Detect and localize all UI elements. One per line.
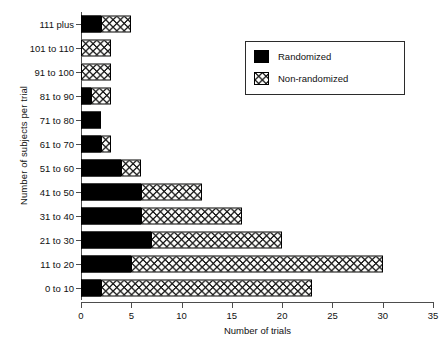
x-axis-tick — [383, 303, 384, 308]
y-axis-tick — [76, 216, 81, 217]
chart-row: 61 to 70 — [81, 132, 433, 156]
bar-segment-randomized[interactable] — [81, 136, 101, 153]
chart-row: 41 to 50 — [81, 180, 433, 204]
bar-segment-non-randomized[interactable] — [81, 40, 111, 57]
stacked-bar[interactable] — [81, 16, 131, 33]
x-axis-tick-label: 10 — [176, 310, 187, 321]
y-axis-tick — [76, 72, 81, 73]
y-axis-title: Number of subjects per trial — [18, 26, 29, 266]
chart-row: 51 to 60 — [81, 156, 433, 180]
bar-segment-randomized[interactable] — [81, 160, 121, 177]
bar-segment-non-randomized[interactable] — [101, 136, 111, 153]
chart-row: 111 plus — [81, 12, 433, 36]
y-axis-tick — [76, 192, 81, 193]
stacked-bar[interactable] — [81, 112, 101, 129]
x-axis-tick-label: 20 — [277, 310, 288, 321]
chart-legend: Randomized Non-randomized — [245, 41, 405, 95]
stacked-bar[interactable] — [81, 88, 111, 105]
y-axis-tick — [76, 264, 81, 265]
x-axis-tick-label: 35 — [428, 310, 439, 321]
x-axis-line — [81, 302, 434, 303]
y-axis-tick — [76, 168, 81, 169]
y-axis-tick-label: 61 to 70 — [40, 139, 74, 150]
x-axis-tick — [182, 303, 183, 308]
bar-segment-randomized[interactable] — [81, 280, 101, 297]
cross-hatch-swatch — [254, 72, 269, 85]
bar-segment-randomized[interactable] — [81, 256, 131, 273]
bar-segment-randomized[interactable] — [81, 208, 141, 225]
y-axis-tick-label: 41 to 50 — [40, 187, 74, 198]
x-axis-tick-label: 0 — [78, 310, 83, 321]
legend-item-randomized: Randomized — [254, 48, 396, 65]
stacked-bar[interactable] — [81, 40, 111, 57]
chart-row: 71 to 80 — [81, 108, 433, 132]
x-axis-tick — [332, 303, 333, 308]
chart-row: 0 to 10 — [81, 276, 433, 300]
legend-label-non-randomized: Non-randomized — [278, 73, 348, 84]
solid-black-swatch — [254, 50, 269, 63]
bar-segment-non-randomized[interactable] — [91, 88, 111, 105]
stacked-bar[interactable] — [81, 64, 111, 81]
bar-segment-non-randomized[interactable] — [131, 256, 382, 273]
x-axis-title: Number of trials — [81, 325, 434, 336]
stacked-bar[interactable] — [81, 256, 383, 273]
stacked-bar[interactable] — [81, 232, 282, 249]
bar-segment-randomized[interactable] — [81, 232, 151, 249]
y-axis-tick — [76, 96, 81, 97]
stacked-bar-chart: Number of subjects per trial 111 plus101… — [0, 0, 446, 343]
y-axis-tick — [76, 48, 81, 49]
y-axis-tick-label: 71 to 80 — [40, 115, 74, 126]
bar-segment-randomized[interactable] — [81, 184, 141, 201]
x-axis-tick — [232, 303, 233, 308]
x-axis-tick-label: 5 — [129, 310, 134, 321]
y-axis-tick-label: 31 to 40 — [40, 211, 74, 222]
y-axis-tick-label: 101 to 110 — [30, 43, 74, 54]
chart-row: 21 to 30 — [81, 228, 433, 252]
x-axis-tick — [282, 303, 283, 308]
x-axis-tick — [131, 303, 132, 308]
stacked-bar[interactable] — [81, 208, 242, 225]
y-axis-tick — [76, 144, 81, 145]
bar-segment-randomized[interactable] — [81, 88, 91, 105]
stacked-bar[interactable] — [81, 184, 202, 201]
y-axis-tick — [76, 120, 81, 121]
bar-segment-randomized[interactable] — [81, 112, 101, 129]
x-axis-tick-label: 30 — [377, 310, 388, 321]
bar-segment-non-randomized[interactable] — [81, 64, 111, 81]
bar-segment-non-randomized[interactable] — [101, 280, 312, 297]
bar-segment-non-randomized[interactable] — [151, 232, 282, 249]
y-axis-tick-label: 91 to 100 — [34, 67, 74, 78]
y-axis-tick — [76, 288, 81, 289]
stacked-bar[interactable] — [81, 160, 141, 177]
y-axis-tick-label: 21 to 30 — [40, 235, 74, 246]
y-axis-tick — [76, 24, 81, 25]
legend-label-randomized: Randomized — [278, 51, 331, 62]
stacked-bar[interactable] — [81, 136, 111, 153]
chart-row: 31 to 40 — [81, 204, 433, 228]
bar-segment-non-randomized[interactable] — [101, 16, 131, 33]
bar-segment-randomized[interactable] — [81, 16, 101, 33]
x-axis-tick-label: 25 — [327, 310, 338, 321]
legend-item-non-randomized: Non-randomized — [254, 70, 396, 87]
x-axis-tick-label: 15 — [227, 310, 238, 321]
y-axis-tick-label: 51 to 60 — [40, 163, 74, 174]
y-axis-tick-label: 0 to 10 — [45, 283, 74, 294]
y-axis-tick-label: 11 to 20 — [40, 259, 74, 270]
y-axis-tick-label: 81 to 90 — [40, 91, 74, 102]
stacked-bar[interactable] — [81, 280, 312, 297]
bar-segment-non-randomized[interactable] — [121, 160, 141, 177]
bar-segment-non-randomized[interactable] — [141, 208, 242, 225]
x-axis-tick — [433, 303, 434, 308]
x-axis-tick — [81, 303, 82, 308]
y-axis-tick-label: 111 plus — [39, 19, 74, 30]
y-axis-tick — [76, 240, 81, 241]
bar-segment-non-randomized[interactable] — [141, 184, 201, 201]
chart-row: 11 to 20 — [81, 252, 433, 276]
